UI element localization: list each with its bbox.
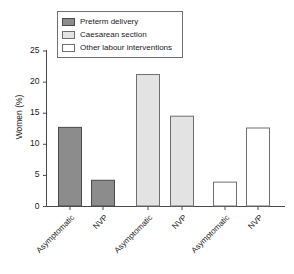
legend-swatch-preterm-delivery bbox=[62, 18, 75, 26]
legend-label-caesarean-section: Caesarean section bbox=[80, 30, 147, 39]
legend-item-preterm-delivery: Preterm delivery bbox=[62, 15, 178, 28]
y-tick-label: 25 bbox=[18, 45, 40, 55]
bar bbox=[171, 116, 194, 206]
bar bbox=[92, 180, 115, 206]
bar bbox=[247, 128, 270, 206]
y-tick-label: 0 bbox=[18, 201, 40, 211]
y-tick-marks bbox=[43, 51, 47, 207]
y-tick-label: 20 bbox=[18, 76, 40, 86]
legend-item-caesarean-section: Caesarean section bbox=[62, 28, 178, 41]
legend-item-other-labour-interventions: Other labour interventions bbox=[62, 41, 178, 54]
legend-swatch-other-labour-interventions bbox=[62, 44, 75, 52]
bars-group bbox=[59, 75, 270, 206]
y-tick-label: 15 bbox=[18, 107, 40, 117]
legend-swatch-caesarean-section bbox=[62, 31, 75, 39]
bar-chart-figure: Preterm delivery Caesarean section Other… bbox=[0, 0, 294, 274]
y-tick-label: 10 bbox=[18, 138, 40, 148]
x-tick-marks bbox=[70, 207, 258, 211]
chart-legend: Preterm delivery Caesarean section Other… bbox=[57, 11, 183, 58]
y-tick-label: 5 bbox=[18, 169, 40, 179]
bar bbox=[59, 127, 82, 206]
legend-label-other-labour-interventions: Other labour interventions bbox=[80, 43, 172, 52]
legend-label-preterm-delivery: Preterm delivery bbox=[80, 17, 138, 26]
bar bbox=[137, 75, 160, 206]
bar bbox=[214, 182, 237, 206]
